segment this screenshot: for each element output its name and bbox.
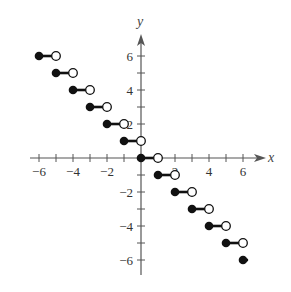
step-segment: [69, 86, 95, 95]
axes: [30, 34, 266, 275]
step-segment: [154, 171, 180, 180]
y-tick-label: −2: [119, 185, 133, 200]
closed-endpoint-icon: [52, 69, 61, 78]
step-segment: [86, 103, 112, 112]
x-tick-label: −6: [32, 164, 46, 179]
step-segment: [171, 188, 197, 197]
y-tick-label: −6: [119, 253, 133, 268]
closed-endpoint-icon: [171, 188, 180, 197]
closed-endpoint-icon: [239, 256, 248, 265]
closed-endpoint-icon: [188, 205, 197, 214]
step-segment: [52, 69, 78, 78]
open-endpoint-icon: [222, 222, 231, 231]
step-segment: [120, 137, 146, 146]
open-endpoint-icon: [171, 171, 180, 180]
y-tick-label: −4: [119, 219, 133, 234]
closed-endpoint-icon: [137, 154, 146, 163]
closed-endpoint-icon: [154, 171, 163, 180]
x-tick-label: −4: [66, 164, 80, 179]
closed-endpoint-icon: [205, 222, 214, 231]
closed-endpoint-icon: [120, 137, 129, 146]
open-endpoint-icon: [69, 69, 78, 78]
step-segment: [35, 52, 61, 61]
open-endpoint-icon: [52, 52, 61, 61]
step-segment: [137, 154, 163, 163]
open-endpoint-icon: [188, 188, 197, 197]
closed-endpoint-icon: [35, 52, 44, 61]
y-tick-label: 4: [127, 83, 134, 98]
closed-endpoint-icon: [222, 239, 231, 248]
closed-endpoint-icon: [86, 103, 95, 112]
open-endpoint-icon: [239, 239, 248, 248]
open-endpoint-icon: [137, 137, 146, 146]
step-segment: [103, 120, 129, 129]
step-function-plot: −6−4−2246642−2−4−6 x y: [0, 0, 291, 292]
y-axis-label: y: [135, 14, 144, 29]
open-endpoint-icon: [86, 86, 95, 95]
x-tick-label: 4: [206, 164, 213, 179]
step-segment: [188, 205, 214, 214]
x-axis-label: x: [267, 150, 275, 165]
open-endpoint-icon: [103, 103, 112, 112]
step-segment: [205, 222, 231, 231]
open-endpoint-icon: [154, 154, 163, 163]
step-segment: [222, 239, 248, 248]
x-tick-label: −2: [100, 164, 114, 179]
x-tick-label: 6: [240, 164, 247, 179]
closed-endpoint-icon: [69, 86, 78, 95]
closed-endpoint-icon: [103, 120, 112, 129]
open-endpoint-icon: [120, 120, 129, 129]
y-tick-label: 6: [127, 49, 134, 64]
open-endpoint-icon: [205, 205, 214, 214]
step-segment: [239, 256, 248, 265]
